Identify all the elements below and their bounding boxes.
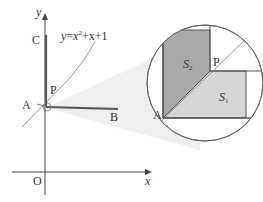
point-C-label: C [32,33,40,47]
inset-A-label: A [153,108,162,122]
point-A-label: A [22,98,31,112]
inset-P-label: P [213,55,220,69]
origin-label: O [33,174,42,188]
y-axis-label: y [35,5,42,19]
y-axis-arrow [42,13,48,20]
point-P-label: P [50,83,57,97]
x-axis-label: x [144,174,151,188]
point-B-label: B [110,110,118,124]
diagram: y C P A B O x y=x2+x+1 S2 S1 P A [0,0,263,202]
curve-equation: y=x2+x+1 [60,29,107,43]
